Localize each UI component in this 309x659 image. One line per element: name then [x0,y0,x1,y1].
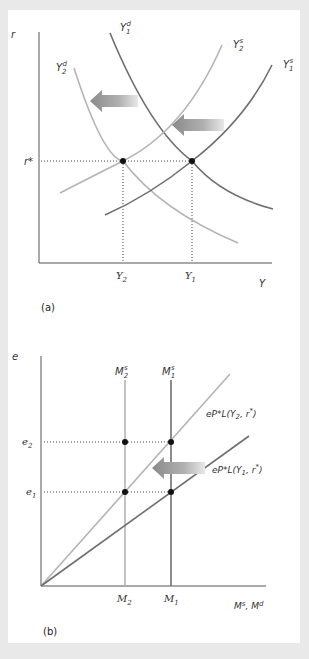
y1-tick-label: Y1 [185,270,196,284]
shift-left-arrow-icon [152,457,205,479]
e1-tick-label: e1 [26,486,36,500]
shift-left-arrow-icon [172,114,224,136]
y2-demand-label: Y2d [56,60,68,76]
money-demand-y2-label: eP*L(Y2, r*) [206,407,256,421]
m2-supply-label: M2s [115,364,129,380]
y2-supply-label: Y2s [233,37,244,53]
panel-a-caption: (a) [41,302,55,313]
money-axis-label: Ms, Md [234,600,264,611]
m1-supply-label: M1s [162,364,175,380]
money-demand-y1-label: eP*L(Y1, r*) [212,463,262,477]
panel-a: r Y Y1d Y2d Y2s Y1s r* Y2 Y1 (a) [11,20,294,313]
figure-svg: r Y Y1d Y2d Y2s Y1s r* Y2 Y1 (a) e [0,0,309,659]
r-star-label: r* [24,156,33,167]
point-m2-e2 [122,439,128,445]
panel-b-caption: (b) [43,626,57,637]
money-demand-y1-line [41,436,249,586]
equilibrium-point-2 [120,158,126,164]
equilibrium-point-1 [189,158,195,164]
point-m2-e1 [122,489,128,495]
e-axis-label: e [12,351,18,362]
y1-supply-label: Y1s [283,57,294,73]
y1-supply-curve [105,65,272,215]
e2-tick-label: e2 [22,436,33,450]
m1-tick-label: M1 [163,593,179,607]
y1-demand-label: Y1d [120,20,132,36]
money-demand-y2-line [41,374,230,586]
point-m1-e1 [168,489,174,495]
r-axis-label: r [11,29,16,40]
y-axis-label: Y [259,278,266,289]
y2-tick-label: Y2 [116,270,128,284]
shift-left-arrow-icon [90,90,138,112]
point-m1-e2 [168,439,174,445]
panel-b: e M2s M1s eP*L(Y2, r*) eP*L(Y1, r*) e2 e… [12,351,266,637]
m2-tick-label: M2 [116,593,132,607]
